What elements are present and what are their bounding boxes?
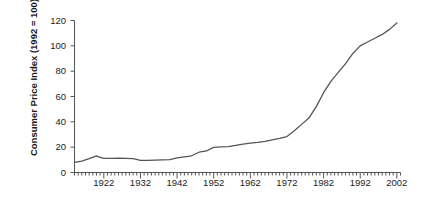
- tick-marks: [71, 21, 401, 179]
- x-tick-label: 2002: [377, 177, 417, 188]
- x-tick-label: 1952: [194, 177, 234, 188]
- x-tick-label: 1962: [230, 177, 270, 188]
- axes: [75, 21, 401, 173]
- cpi-data-line: [75, 23, 397, 162]
- x-axis-tick-labels: 192219321942195219621972198219922002: [0, 177, 429, 197]
- x-tick-label: 1942: [157, 177, 197, 188]
- x-tick-label: 1972: [267, 177, 307, 188]
- cpi-line-chart: Consumer Price Index (1992 = 100) 020406…: [0, 0, 429, 209]
- x-tick-label: 1932: [120, 177, 160, 188]
- x-tick-label: 1922: [84, 177, 124, 188]
- x-tick-label: 1992: [340, 177, 380, 188]
- x-tick-label: 1982: [304, 177, 344, 188]
